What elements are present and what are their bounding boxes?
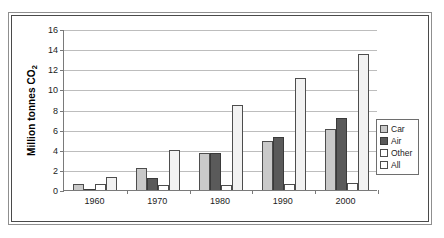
- x-axis-tick-mark: [190, 190, 191, 194]
- bar-other-1970: [158, 185, 169, 190]
- y-axis-tick-label: 14: [18, 45, 64, 55]
- chart-legend: CarAirOtherAll: [376, 119, 419, 175]
- bar-all-1960: [106, 177, 117, 190]
- bar-group: [315, 30, 378, 190]
- legend-swatch-all-icon: [380, 161, 388, 169]
- bar-group: [252, 30, 315, 190]
- chart-figure: Million tonnes CO2 0246810121416 1960197…: [0, 0, 444, 238]
- legend-swatch-car-icon: [380, 125, 388, 133]
- x-axis-tick-label-1960: 1960: [64, 196, 124, 206]
- bar-air-1990: [273, 137, 284, 190]
- bar-all-1970: [169, 150, 180, 190]
- x-axis-tick-label-1990: 1990: [253, 196, 313, 206]
- y-axis-tick-label: 12: [18, 65, 64, 75]
- bar-other-1980: [221, 185, 232, 190]
- bar-air-2000: [336, 118, 347, 190]
- bar-all-1980: [232, 105, 243, 190]
- y-axis-tick-label: 16: [18, 25, 64, 35]
- bar-other-1960: [95, 184, 106, 190]
- bar-all-1990: [295, 78, 306, 190]
- x-axis-tick-label-1980: 1980: [190, 196, 250, 206]
- bar-car-1970: [136, 168, 147, 190]
- legend-label: All: [391, 161, 400, 170]
- y-axis-tick-label: 8: [18, 106, 64, 116]
- bar-car-1980: [199, 153, 210, 190]
- x-axis-tick-mark: [315, 190, 316, 194]
- legend-item-car[interactable]: Car: [380, 123, 415, 135]
- bar-car-1990: [262, 141, 273, 190]
- x-axis-tick-mark: [378, 190, 379, 194]
- x-axis-tick-label-1970: 1970: [127, 196, 187, 206]
- legend-item-air[interactable]: Air: [380, 135, 415, 147]
- x-axis-tick-mark: [252, 190, 253, 194]
- bar-group: [64, 30, 127, 190]
- bar-air-1970: [147, 178, 158, 190]
- bar-car-1960: [73, 184, 84, 190]
- y-axis-tick-label: 10: [18, 85, 64, 95]
- plot-area: 0246810121416: [63, 30, 377, 191]
- x-axis-tick-mark: [127, 190, 128, 194]
- legend-label: Other: [391, 149, 412, 158]
- bar-group: [190, 30, 253, 190]
- bar-car-2000: [325, 129, 336, 190]
- x-axis-tick-label-2000: 2000: [316, 196, 376, 206]
- legend-label: Car: [391, 125, 405, 134]
- y-axis-tick-label: 4: [18, 146, 64, 156]
- y-axis-tick-mark: [60, 191, 64, 192]
- legend-label: Air: [391, 137, 401, 146]
- y-axis-tick-label: 2: [18, 166, 64, 176]
- legend-swatch-other-icon: [380, 149, 388, 157]
- bar-all-2000: [358, 54, 369, 190]
- bar-other-1990: [284, 184, 295, 190]
- bar-other-2000: [347, 183, 358, 190]
- y-axis-tick-label: 0: [18, 186, 64, 196]
- bar-air-1960: [84, 189, 95, 191]
- y-axis-tick-label: 6: [18, 126, 64, 136]
- legend-swatch-air-icon: [380, 137, 388, 145]
- bar-air-1980: [210, 153, 221, 190]
- legend-item-all[interactable]: All: [380, 159, 415, 171]
- legend-item-other[interactable]: Other: [380, 147, 415, 159]
- bar-group: [127, 30, 190, 190]
